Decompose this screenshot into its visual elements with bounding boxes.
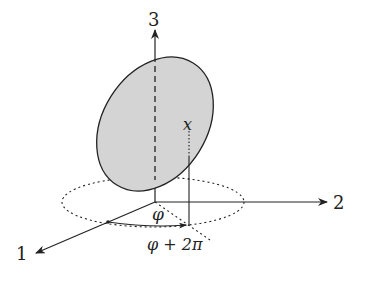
angle-phi-label: φ [152,204,164,224]
point-x-label: x [183,115,192,134]
axis-3-label: 3 [148,9,159,30]
rotation-diagram: 3 2 1 x φ φ + 2π [0,0,387,284]
axis-2-label: 2 [333,192,344,213]
axis-1-label: 1 [16,243,27,264]
arc-start-dot [106,220,110,224]
axis-1-line [36,202,155,253]
angle-shift-label: φ + 2π [147,235,203,254]
